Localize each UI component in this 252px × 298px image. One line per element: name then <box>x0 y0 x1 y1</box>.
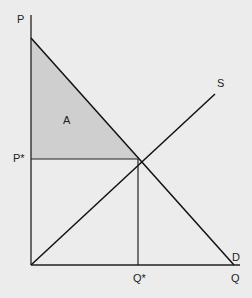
price-axis-label: P <box>17 13 24 25</box>
quantity-axis-label: Q <box>231 272 240 284</box>
supply-demand-diagram: P Q S D P* Q* A <box>0 0 252 298</box>
equilibrium-quantity-label: Q* <box>133 272 147 284</box>
area-a-label: A <box>63 114 71 126</box>
demand-label: D <box>232 251 240 263</box>
equilibrium-price-label: P* <box>13 152 25 164</box>
supply-label: S <box>217 77 224 89</box>
